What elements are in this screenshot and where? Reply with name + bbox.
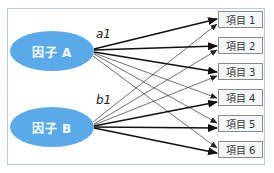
factor-b-ellipse: 因子 B [10, 107, 94, 147]
item-box-2: 項目 2 [218, 37, 263, 54]
path-a-item2 [94, 46, 217, 50]
path-a-item1 [94, 19, 217, 49]
item-box-3: 項目 3 [218, 63, 263, 80]
path-b-item6 [94, 128, 217, 153]
item-label-5: 項目 5 [226, 116, 256, 131]
path-a-item4 [94, 53, 217, 98]
path-a-item6 [93, 56, 217, 148]
path-b-item1 [93, 24, 217, 122]
item-label-1: 項目 1 [226, 12, 256, 27]
item-box-4: 項目 4 [218, 89, 263, 106]
item-box-5: 項目 5 [218, 115, 263, 132]
loading-label-a1: a1 [96, 27, 111, 41]
factor-b-label: 因子 B [32, 119, 71, 136]
item-label-3: 項目 3 [226, 64, 256, 79]
item-label-4: 項目 4 [226, 90, 256, 105]
path-b-item4 [94, 102, 217, 126]
item-box-6: 項目 6 [218, 141, 263, 158]
factor-a-ellipse: 因子 A [10, 31, 94, 71]
item-label-6: 項目 6 [226, 142, 256, 157]
factor-a-label: 因子 A [32, 43, 71, 60]
loading-label-b1: b1 [96, 93, 111, 107]
item-box-1: 項目 1 [218, 11, 263, 28]
path-a-item3 [94, 52, 217, 72]
path-b-item5 [94, 127, 217, 128]
item-label-2: 項目 2 [226, 38, 256, 53]
path-b-item3 [94, 76, 217, 125]
